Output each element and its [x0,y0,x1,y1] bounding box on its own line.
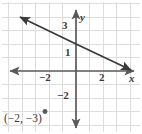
y-tick-label-1: 1 [65,47,71,58]
x-axis-name-label: x [129,73,135,84]
plotted-point-marker [43,109,48,114]
y-tick-label-negative-2: −2 [57,90,69,101]
x-tick-label-2: 2 [99,72,105,83]
coordinate-plane-figure: 3 1 −2 −2 2 x y (−2, −3) [0,0,142,134]
plotted-point-label: (−2, −3) [4,113,42,125]
y-axis-name-label: y [80,12,85,23]
x-tick-label-negative-2: −2 [39,72,51,83]
y-tick-label-3: 3 [62,20,68,31]
